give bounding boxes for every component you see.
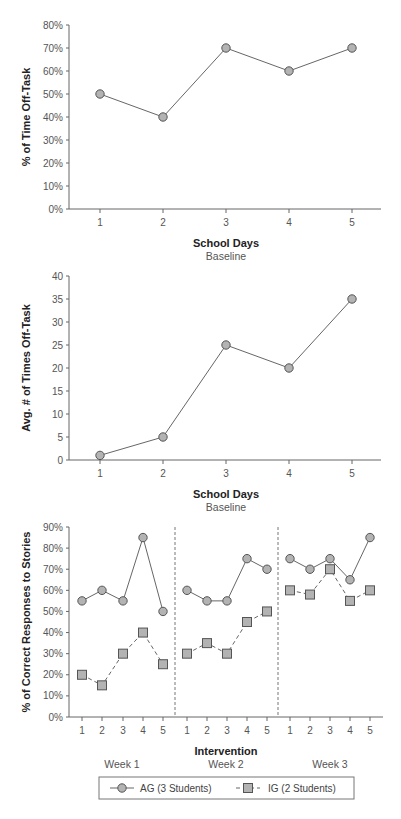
circle-marker-icon (96, 90, 104, 98)
square-marker-icon (78, 670, 87, 679)
series-line (187, 611, 267, 653)
y-tick-label: 10% (43, 690, 63, 701)
y-tick-label: 20% (43, 669, 63, 680)
square-marker-icon (326, 565, 335, 574)
square-marker-icon (306, 590, 315, 599)
y-tick-label: 5 (57, 432, 63, 443)
circle-marker-icon (222, 341, 230, 349)
square-marker-icon (263, 607, 272, 616)
circle-marker-icon (118, 784, 126, 792)
square-marker-icon (119, 649, 128, 658)
y-tick-label: 70% (43, 43, 63, 54)
x-tick-label: 5 (160, 725, 166, 736)
series-line (82, 633, 163, 686)
x-axis-title: School Days (193, 237, 259, 249)
y-tick-label: 80% (43, 20, 63, 31)
x-tick-label: 4 (244, 725, 250, 736)
data-line (100, 48, 352, 117)
y-tick-label: 40% (43, 627, 63, 638)
x-tick-label: 2 (307, 725, 313, 736)
x-tick-label: 5 (264, 725, 270, 736)
x-tick-label: 5 (367, 725, 373, 736)
y-tick-label: 0% (49, 712, 64, 723)
y-tick-label: 20 (52, 363, 64, 374)
x-axis-title: School Days (193, 488, 259, 500)
y-tick-label: 30 (52, 317, 64, 328)
data-line (100, 299, 352, 455)
y-tick-label: 80% (43, 543, 63, 554)
y-tick-label: 0 (57, 455, 63, 466)
legend-label-ig: IG (2 Students) (268, 783, 336, 794)
y-axis-title: % of Correct Responses to Stories (20, 532, 32, 713)
y-tick-label: 20% (43, 158, 63, 169)
circle-marker-icon (286, 554, 294, 562)
y-tick-label: 40% (43, 112, 63, 123)
square-marker-icon (346, 596, 355, 605)
y-tick-label: 15 (52, 386, 64, 397)
square-marker-icon (366, 586, 375, 595)
legend-label-ag: AG (3 Students) (140, 783, 212, 794)
square-marker-icon (286, 586, 295, 595)
circle-marker-icon (366, 533, 374, 541)
circle-marker-icon (203, 597, 211, 605)
legend: AG (3 Students)IG (2 Students) (99, 777, 354, 799)
x-axis-title: Intervention (195, 745, 258, 757)
y-tick-label: 50% (43, 89, 63, 100)
circle-marker-icon (285, 364, 293, 372)
x-tick-label: 5 (349, 468, 355, 479)
circle-marker-icon (139, 533, 147, 541)
circle-marker-icon (348, 295, 356, 303)
circle-marker-icon (159, 607, 167, 615)
y-axis-title: % of Time Off-Task (20, 67, 32, 166)
square-marker-icon (223, 649, 232, 658)
square-marker-icon (203, 639, 212, 648)
circle-marker-icon (98, 586, 106, 594)
x-tick-label: 4 (140, 725, 146, 736)
square-marker-icon (98, 681, 107, 690)
y-tick-label: 0% (49, 204, 64, 215)
circle-marker-icon (222, 44, 230, 52)
circle-marker-icon (263, 565, 271, 573)
circle-marker-icon (306, 565, 314, 573)
y-tick-label: 10% (43, 181, 63, 192)
circle-marker-icon (223, 597, 231, 605)
y-tick-label: 40 (52, 271, 64, 282)
y-axis-title: Avg. # of Times Off-Task (20, 303, 32, 431)
y-tick-label: 30% (43, 135, 63, 146)
x-tick-label: 1 (79, 725, 85, 736)
square-marker-icon (183, 649, 192, 658)
square-marker-icon (139, 628, 148, 637)
y-tick-label: 30% (43, 648, 63, 659)
x-tick-label: 3 (223, 217, 229, 228)
circle-marker-icon (243, 554, 251, 562)
x-tick-label: 2 (204, 725, 210, 736)
phase-label: Week 3 (312, 758, 348, 770)
x-tick-label: 1 (287, 725, 293, 736)
y-tick-label: 35 (52, 294, 64, 305)
x-tick-label: 3 (224, 725, 230, 736)
x-tick-label: 4 (347, 725, 353, 736)
x-tick-label: 4 (286, 468, 292, 479)
chart-time-off-task: 0%10%20%30%40%50%60%70%80%12345% of Time… (20, 20, 381, 263)
chart-times-off-task: 051015202530354012345Avg. # of Times Off… (20, 271, 381, 514)
y-tick-label: 60% (43, 585, 63, 596)
charts-canvas: 0%10%20%30%40%50%60%70%80%12345% of Time… (0, 0, 401, 819)
series-line (187, 559, 267, 601)
phase-label: Week 2 (208, 758, 244, 770)
circle-marker-icon (96, 451, 104, 459)
x-tick-label: 3 (120, 725, 126, 736)
phase-label: Week 1 (104, 758, 140, 770)
phase-label: Baseline (206, 250, 246, 262)
x-tick-label: 3 (223, 468, 229, 479)
phase-label: Baseline (206, 501, 246, 513)
square-marker-icon (159, 660, 168, 669)
x-tick-label: 2 (160, 468, 166, 479)
x-tick-label: 1 (184, 725, 190, 736)
y-tick-label: 10 (52, 409, 64, 420)
chart-correct-responses: 0%10%20%30%40%50%60%70%80%90%12345123451… (20, 522, 383, 800)
square-marker-icon (243, 618, 252, 627)
x-tick-label: 5 (349, 217, 355, 228)
circle-marker-icon (348, 44, 356, 52)
y-tick-label: 50% (43, 606, 63, 617)
circle-marker-icon (346, 576, 354, 584)
